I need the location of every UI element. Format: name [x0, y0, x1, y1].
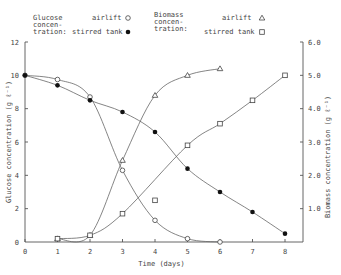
- y2-tick-label: 2.0: [308, 172, 321, 180]
- data-point: [250, 98, 255, 103]
- data-point: [23, 73, 28, 78]
- data-point: [185, 166, 190, 171]
- x-tick-label: 7: [250, 248, 254, 256]
- x-tick-label: 3: [120, 248, 124, 256]
- data-point: [120, 211, 125, 216]
- data-point: [218, 190, 223, 195]
- series-curve: [25, 75, 285, 233]
- x-tick-label: 1: [55, 248, 59, 256]
- legend-biomass-title: tration:: [154, 25, 188, 33]
- data-point: [283, 73, 288, 78]
- y2-tick-label: 6.0: [308, 39, 321, 47]
- data-point: [88, 98, 93, 103]
- data-point: [217, 66, 223, 71]
- data-point: [153, 130, 158, 135]
- y-tick-label: 12: [11, 39, 19, 47]
- data-point: [218, 121, 223, 126]
- data-point: [185, 236, 190, 241]
- data-point: [120, 158, 126, 163]
- y2-tick-label: 5.0: [308, 72, 321, 80]
- series-curve: [58, 69, 221, 242]
- legend-marker: [126, 30, 131, 35]
- y2-tick-label: 3.0: [308, 139, 321, 147]
- data-point: [55, 77, 60, 82]
- legend-marker: [260, 30, 265, 35]
- legend-marker: [259, 15, 265, 20]
- legend-biomass-airlift: airlift: [222, 14, 252, 22]
- data-point: [218, 240, 223, 245]
- y2-tick-label: 1.0: [308, 205, 321, 213]
- x-tick-label: 5: [185, 248, 189, 256]
- data-point: [185, 143, 190, 148]
- legend-glucose-title: tration:: [33, 28, 67, 36]
- legend-biomass-stirred: stirred tank: [204, 28, 255, 36]
- data-point: [120, 110, 125, 115]
- y-tick-label: 4: [15, 172, 19, 180]
- x-tick-label: 4: [153, 248, 157, 256]
- data-point: [55, 83, 60, 88]
- legend-glucose-airlift: airlift: [92, 14, 122, 22]
- data-point: [120, 168, 125, 173]
- y2-tick-label: 4.0: [308, 105, 321, 113]
- data-point: [153, 198, 158, 203]
- data-point: [153, 218, 158, 223]
- data-point: [283, 231, 288, 236]
- data-point: [55, 236, 60, 241]
- y-tick-label: 8: [15, 105, 19, 113]
- y-tick-label: 10: [11, 72, 19, 80]
- legend-marker: [126, 16, 131, 21]
- data-point: [250, 210, 255, 215]
- y-tick-label: 0: [15, 239, 19, 247]
- x-tick-label: 2: [88, 248, 92, 256]
- x-tick-label: 0: [23, 248, 27, 256]
- y-tick-label: 2: [15, 205, 19, 213]
- x-axis-label: Time (days): [138, 260, 184, 268]
- data-point: [88, 233, 93, 238]
- y-axis-label: Glucose concentration (g ℓ⁻¹): [5, 81, 13, 203]
- legend-glucose-stirred: stirred tank: [72, 28, 123, 36]
- y2-axis-label: Biomass concentration (g ℓ⁻¹): [324, 96, 332, 218]
- x-tick-label: 8: [283, 248, 287, 256]
- y-tick-label: 6: [15, 139, 19, 147]
- x-tick-label: 6: [218, 248, 222, 256]
- chart: 0123456780246810121.02.03.04.05.06.0Time…: [0, 0, 341, 275]
